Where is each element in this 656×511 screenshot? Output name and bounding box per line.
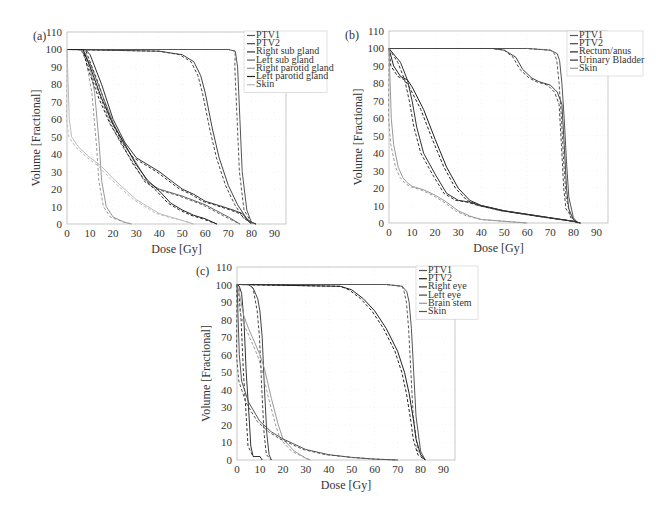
svg-text:100: 100 [368, 42, 385, 54]
svg-text:60: 60 [200, 227, 212, 239]
svg-text:40: 40 [373, 147, 385, 159]
series-skin-dashed [67, 50, 194, 225]
svg-text:20: 20 [430, 226, 442, 238]
svg-text:10: 10 [254, 463, 266, 475]
panel-b: (b)0102030405060708090010203040506070809… [345, 25, 645, 255]
svg-text:0: 0 [227, 454, 233, 466]
svg-text:40: 40 [323, 463, 335, 475]
svg-text:80: 80 [51, 78, 63, 90]
svg-text:60: 60 [221, 349, 233, 361]
svg-text:60: 60 [51, 113, 63, 125]
svg-text:80: 80 [221, 314, 233, 326]
svg-text:0: 0 [234, 463, 240, 475]
svg-text:0: 0 [64, 227, 70, 239]
svg-text:40: 40 [51, 148, 63, 160]
svg-text:90: 90 [269, 227, 281, 239]
svg-text:30: 30 [300, 463, 312, 475]
svg-text:90: 90 [373, 60, 385, 72]
svg-text:110: 110 [216, 261, 233, 273]
panel-label: (c) [196, 264, 209, 278]
x-axis-label: Dose [Gy] [151, 242, 201, 256]
legend-entry: Skin [256, 78, 274, 89]
svg-text:70: 70 [221, 331, 233, 343]
svg-text:50: 50 [499, 226, 511, 238]
svg-text:90: 90 [591, 226, 603, 238]
x-axis-ticks: 0102030405060708090 [234, 463, 449, 475]
svg-text:100: 100 [46, 43, 63, 55]
svg-text:90: 90 [438, 463, 450, 475]
legend: PTV1PTV2Right eyeLeft eyeBrain stemSkin [416, 264, 478, 319]
series-left-parotid-gland-solid [67, 50, 217, 225]
svg-text:80: 80 [373, 77, 385, 89]
svg-text:30: 30 [51, 166, 63, 178]
svg-text:40: 40 [476, 226, 488, 238]
svg-text:20: 20 [373, 182, 385, 194]
panel-label: (a) [33, 29, 46, 43]
svg-text:70: 70 [51, 96, 63, 108]
series-left-eye-dashed [237, 285, 271, 461]
y-axis-ticks: 0102030405060708090100110 [368, 25, 385, 229]
svg-text:50: 50 [373, 130, 385, 142]
x-axis-ticks: 0102030405060708090 [386, 226, 602, 238]
legend: PTV1PTV2Rectum/anusUrinary BladderSkin [567, 29, 645, 76]
series-lines [237, 285, 426, 461]
svg-text:0: 0 [386, 226, 392, 238]
panel-label: (b) [345, 28, 359, 42]
svg-text:50: 50 [51, 131, 63, 143]
x-axis-label: Dose [Gy] [321, 478, 371, 492]
svg-text:30: 30 [453, 226, 465, 238]
svg-text:90: 90 [221, 296, 233, 308]
panel-c: (c)0102030405060708090010203040506070809… [196, 261, 478, 492]
svg-text:30: 30 [373, 165, 385, 177]
y-axis-label: Volume [Fractional] [199, 325, 213, 422]
svg-text:30: 30 [131, 227, 143, 239]
svg-text:80: 80 [415, 463, 427, 475]
svg-text:0: 0 [57, 218, 63, 230]
series-left-parotid-gland-dashed [67, 50, 217, 225]
svg-text:40: 40 [154, 227, 166, 239]
svg-text:10: 10 [221, 436, 233, 448]
svg-text:80: 80 [568, 226, 580, 238]
svg-text:60: 60 [373, 112, 385, 124]
svg-text:10: 10 [51, 201, 63, 213]
svg-text:20: 20 [277, 463, 289, 475]
svg-text:100: 100 [216, 279, 233, 291]
figure-canvas: (a)0102030405060708090010203040506070809… [0, 0, 656, 511]
svg-text:70: 70 [392, 463, 404, 475]
legend: PTV1PTV2Right sub glandLeft sub glandRig… [244, 29, 334, 92]
svg-text:90: 90 [51, 61, 63, 73]
svg-text:20: 20 [51, 183, 63, 195]
svg-text:50: 50 [177, 227, 189, 239]
svg-text:80: 80 [246, 227, 258, 239]
svg-text:110: 110 [46, 26, 63, 38]
x-axis-ticks: 0102030405060708090 [64, 227, 280, 239]
svg-text:50: 50 [221, 366, 233, 378]
series-left-eye-solid [237, 285, 271, 461]
y-axis-label: Volume [Fractional] [351, 89, 365, 186]
y-axis-ticks: 0102030405060708090100110 [216, 261, 233, 466]
svg-text:70: 70 [545, 226, 557, 238]
svg-text:10: 10 [407, 226, 419, 238]
svg-text:30: 30 [221, 401, 233, 413]
svg-text:60: 60 [522, 226, 534, 238]
svg-text:60: 60 [369, 463, 381, 475]
svg-text:0: 0 [379, 217, 385, 229]
svg-text:20: 20 [221, 419, 233, 431]
svg-text:10: 10 [373, 200, 385, 212]
svg-text:70: 70 [373, 95, 385, 107]
y-axis-ticks: 0102030405060708090100110 [46, 26, 63, 230]
x-axis-label: Dose [Gy] [473, 241, 523, 255]
svg-text:20: 20 [108, 227, 120, 239]
svg-text:70: 70 [223, 227, 235, 239]
svg-text:40: 40 [221, 384, 233, 396]
panel-a: (a)0102030405060708090010203040506070809… [29, 26, 334, 256]
legend-entry: Skin [579, 62, 597, 73]
svg-text:50: 50 [346, 463, 358, 475]
legend-entry: Skin [428, 305, 446, 316]
y-axis-label: Volume [Fractional] [29, 90, 43, 187]
series-skin-solid [67, 50, 194, 225]
svg-text:10: 10 [85, 227, 97, 239]
svg-text:110: 110 [368, 25, 385, 37]
